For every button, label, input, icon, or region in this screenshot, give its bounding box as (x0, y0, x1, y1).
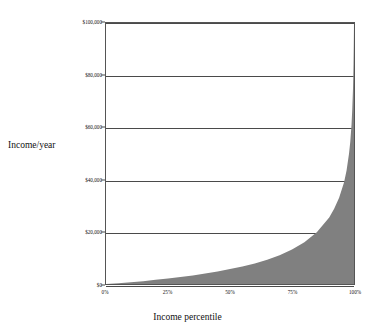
x-axis-title: Income percentile (0, 312, 375, 322)
x-tick-label: 25% (148, 289, 188, 295)
y-tick-label: $40,000 (62, 177, 102, 183)
y-tick-label: $80,000 (62, 72, 102, 78)
x-tick-label: 75% (273, 289, 313, 295)
x-tick-label: 50% (210, 289, 250, 295)
plot-area (105, 22, 355, 285)
y-tick-label: $100,000 (62, 19, 102, 25)
income-area-series (106, 23, 354, 284)
x-tick-label: 0% (85, 289, 125, 295)
y-axis-title: Income/year (8, 140, 55, 150)
y-tick-label: $20,000 (62, 229, 102, 235)
y-tick-label: $60,000 (62, 124, 102, 130)
y-tick-label: $0 (62, 282, 102, 288)
chart-figure: Income/year $0$20,000$40,000$60,000$80,0… (0, 0, 375, 332)
gridline (106, 286, 354, 287)
x-tick-label: 100% (335, 289, 375, 295)
